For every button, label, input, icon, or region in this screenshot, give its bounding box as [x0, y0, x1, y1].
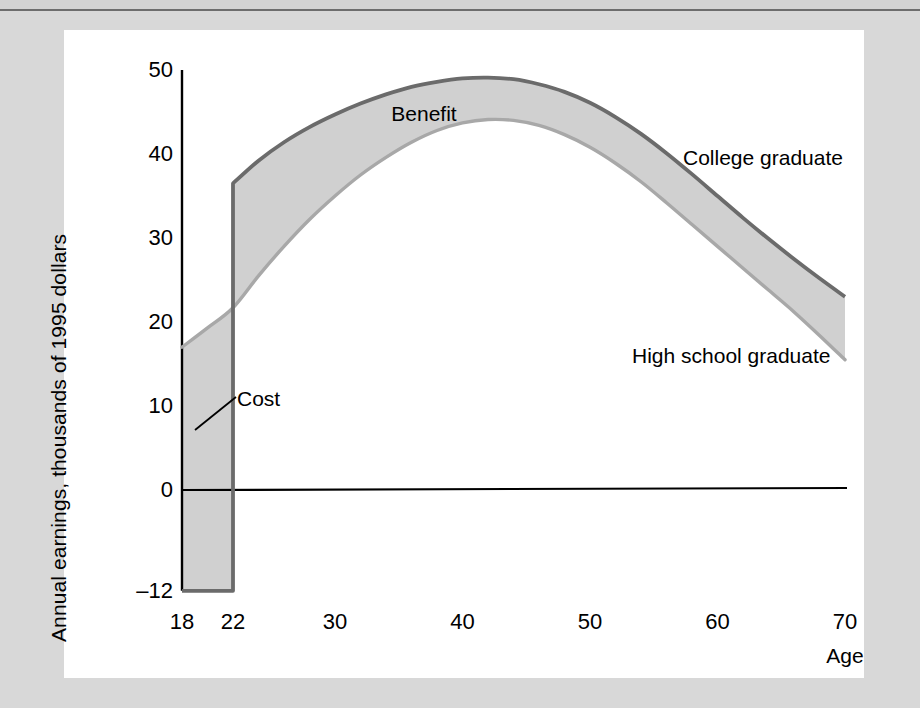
college-graduate-label: College graduate — [683, 147, 843, 168]
y-tick-0: 0 — [161, 479, 173, 501]
highschool-graduate-label: High school graduate — [632, 345, 830, 366]
cost-region — [182, 308, 233, 591]
y-tick-20: 20 — [149, 311, 173, 333]
cost-annotation: Cost — [237, 388, 280, 409]
x-axis-title: Age — [826, 645, 863, 666]
x-tick-50: 50 — [578, 611, 602, 633]
x-tick-70: 70 — [833, 611, 857, 633]
x-tick-30: 30 — [323, 611, 347, 633]
x-tick-22: 22 — [221, 611, 245, 633]
y-tick-neg12: –12 — [136, 580, 173, 602]
zero-line — [182, 488, 847, 490]
x-tick-60: 60 — [705, 611, 729, 633]
y-tick-50: 50 — [149, 59, 173, 81]
x-tick-18: 18 — [170, 611, 194, 633]
y-tick-40: 40 — [149, 143, 173, 165]
y-tick-10: 10 — [149, 395, 173, 417]
figure-root: Annual earnings, thousands of 1995 dolla… — [0, 0, 920, 708]
y-tick-30: 30 — [149, 227, 173, 249]
y-axis-title: Annual earnings, thousands of 1995 dolla… — [48, 234, 69, 642]
x-tick-40: 40 — [450, 611, 474, 633]
benefit-annotation: Benefit — [391, 103, 456, 124]
zero-baseline — [182, 488, 847, 490]
